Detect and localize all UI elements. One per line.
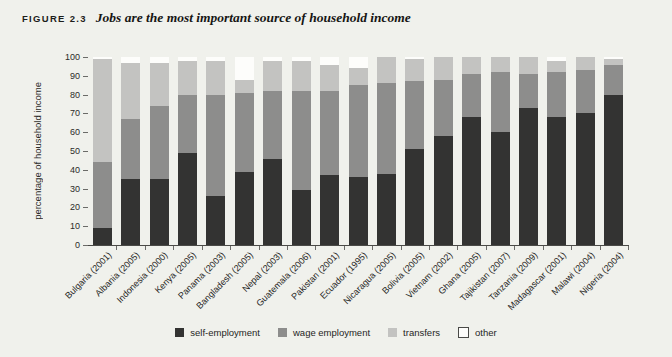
bar-segment-transfers [349, 68, 368, 85]
y-axis-title-wrap: percentage of household income [32, 57, 43, 245]
stacked-bar [434, 57, 453, 245]
bar-segment-wage-employment [377, 83, 396, 173]
bar-segment-self-employment [434, 136, 453, 245]
stacked-bar [263, 57, 282, 245]
x-tick-mark [571, 246, 572, 250]
bar-segment-self-employment [150, 179, 169, 245]
bar-segment-wage-employment [93, 162, 112, 228]
bar-segment-transfers [434, 57, 453, 80]
bar-segment-self-employment [491, 132, 510, 245]
legend-label: wage employment [293, 327, 370, 338]
chart-legend: self-employmentwage employmenttransferso… [0, 327, 672, 338]
stacked-bar-chart: percentage of household income 010203040… [0, 0, 672, 357]
y-tick-label: 70 [58, 108, 80, 118]
stacked-bar [604, 57, 623, 245]
bar-segment-self-employment [320, 175, 339, 245]
bar-segment-self-employment [462, 117, 481, 245]
bar-segment-transfers [93, 59, 112, 162]
stacked-bar [547, 57, 566, 245]
y-tick-mark [83, 207, 88, 208]
bar-segment-transfers [206, 61, 225, 95]
bar-segment-self-employment [121, 179, 140, 245]
bar-segment-wage-employment [178, 95, 197, 153]
bar-segment-transfers [462, 57, 481, 74]
bar-segment-wage-employment [150, 106, 169, 179]
bar-segment-wage-employment [576, 70, 595, 113]
stacked-bar [150, 57, 169, 245]
bar-segment-transfers [405, 59, 424, 82]
legend-swatch-self-employment [175, 328, 184, 337]
y-tick-label: 30 [58, 184, 80, 194]
stacked-bar [206, 57, 225, 245]
bar-segment-self-employment [405, 149, 424, 245]
bar-segment-wage-employment [547, 72, 566, 117]
bar-segment-transfers [491, 57, 510, 72]
legend-label: self-employment [190, 327, 260, 338]
x-tick-mark [259, 246, 260, 250]
bar-segment-transfers [121, 63, 140, 119]
bar-segment-wage-employment [405, 81, 424, 149]
x-tick-mark [230, 246, 231, 250]
x-axis-line [88, 245, 629, 246]
bar-segment-self-employment [547, 117, 566, 245]
bar-segment-wage-employment [320, 91, 339, 176]
x-tick-mark [372, 246, 373, 250]
bar-segment-wage-employment [235, 93, 254, 172]
y-tick-mark [83, 95, 88, 96]
bar-segment-transfers [547, 61, 566, 72]
stacked-bar [519, 57, 538, 245]
stacked-bar [405, 57, 424, 245]
x-tick-mark [173, 246, 174, 250]
y-tick-mark [83, 170, 88, 171]
y-tick-label: 90 [58, 71, 80, 81]
legend-swatch-other [458, 327, 469, 338]
x-tick-mark [486, 246, 487, 250]
stacked-bar [491, 57, 510, 245]
legend-item-self-employment: self-employment [175, 327, 260, 338]
stacked-bar [93, 57, 112, 245]
x-tick-mark [514, 246, 515, 250]
x-tick-mark [315, 246, 316, 250]
x-tick-mark [600, 246, 601, 250]
bar-segment-other [349, 57, 368, 68]
legend-swatch-transfers [388, 328, 397, 337]
y-tick-label: 40 [58, 165, 80, 175]
bar-segment-transfers [150, 63, 169, 106]
y-tick-label: 10 [58, 221, 80, 231]
bar-segment-transfers [377, 57, 396, 83]
x-tick-mark [628, 246, 629, 250]
bar-segment-transfers [519, 57, 538, 74]
x-tick-mark [202, 246, 203, 250]
bar-segment-wage-employment [292, 91, 311, 191]
x-tick-mark [287, 246, 288, 250]
bar-segment-self-employment [349, 177, 368, 245]
y-tick-label: 100 [58, 52, 80, 62]
bar-segment-wage-employment [519, 74, 538, 108]
y-tick-label: 60 [58, 127, 80, 137]
bar-segment-self-employment [576, 113, 595, 245]
bar-segment-wage-employment [206, 95, 225, 197]
bar-segment-self-employment [178, 153, 197, 245]
bar-segment-wage-employment [462, 74, 481, 117]
y-tick-mark [83, 113, 88, 114]
stacked-bar [178, 57, 197, 245]
bar-segment-other [320, 57, 339, 65]
bar-segment-self-employment [292, 190, 311, 245]
bar-segment-wage-employment [604, 65, 623, 95]
x-tick-mark [145, 246, 146, 250]
x-tick-mark [429, 246, 430, 250]
stacked-bar [576, 57, 595, 245]
stacked-bar [320, 57, 339, 245]
bar-segment-self-employment [263, 159, 282, 245]
y-tick-mark [83, 76, 88, 77]
bar-segment-transfers [292, 61, 311, 91]
legend-label: transfers [403, 327, 440, 338]
legend-item-other: other [458, 327, 497, 338]
bar-segment-transfers [235, 80, 254, 93]
y-tick-mark [83, 245, 88, 246]
stacked-bar [462, 57, 481, 245]
bar-segment-other [235, 57, 254, 80]
bar-segment-self-employment [377, 174, 396, 245]
y-tick-mark [83, 226, 88, 227]
y-tick-label: 0 [58, 240, 80, 250]
